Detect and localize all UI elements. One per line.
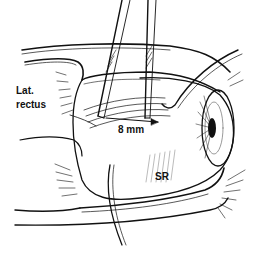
lateral-rectus-label-line2: rectus (16, 100, 46, 110)
forceps (98, 0, 156, 118)
cornea-iris (196, 90, 234, 166)
lateral-rectus-label-line1: Lat. (16, 86, 34, 96)
measurement-label: 8 mm (118, 125, 144, 135)
superior-rectus-label: SR (155, 172, 169, 182)
muscle-hook (70, 50, 242, 245)
lower-retractor (15, 137, 228, 225)
eyelashes (55, 72, 245, 218)
